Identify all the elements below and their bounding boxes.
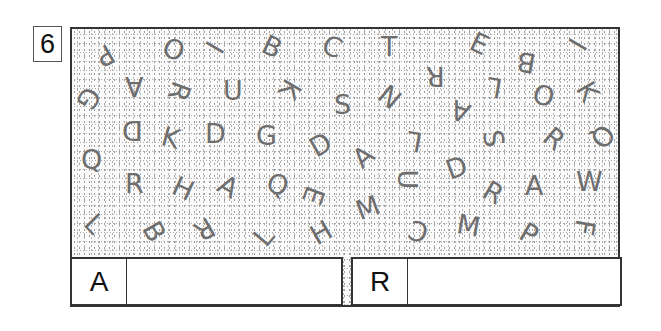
answer-label-r: R xyxy=(353,259,408,304)
scattered-letter: M xyxy=(455,210,483,241)
answer-box-r: R xyxy=(351,257,622,306)
scattered-letter: G xyxy=(256,122,277,149)
scattered-letter: R xyxy=(125,170,144,197)
scattered-letter: U xyxy=(394,170,421,190)
scattered-letter: Q xyxy=(81,146,102,173)
scattered-letter: A xyxy=(525,172,543,199)
scattered-letter: R xyxy=(426,63,445,90)
scattered-letter: A xyxy=(125,73,143,100)
answer-field-r[interactable] xyxy=(408,259,620,304)
answer-box-a: A xyxy=(70,257,343,306)
answer-field-a[interactable] xyxy=(127,259,341,304)
scattered-letter: U xyxy=(223,77,243,104)
answer-label-a: A xyxy=(72,259,127,304)
scattered-letter: W xyxy=(576,168,603,195)
scattered-letter: S xyxy=(334,91,351,118)
scattered-letter: D xyxy=(122,117,143,144)
scattered-letter: D xyxy=(205,120,226,147)
scattered-letter: T xyxy=(381,33,398,60)
puzzle-number-badge: 6 xyxy=(33,26,62,62)
